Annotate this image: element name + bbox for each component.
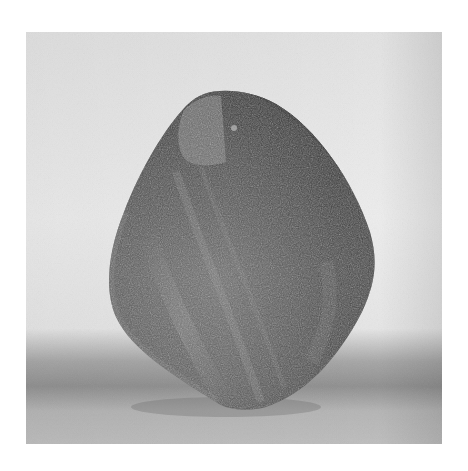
stone-sculpture-image [26,32,442,444]
photograph [26,32,442,444]
